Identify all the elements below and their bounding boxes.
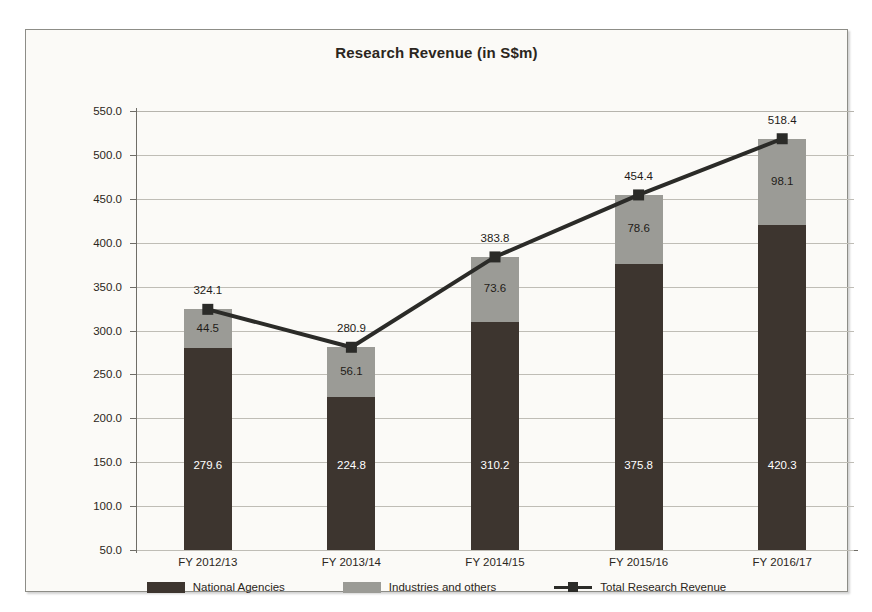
legend-label: Industries and others <box>389 581 496 593</box>
y-axis-tick-label: 350.0 <box>66 281 122 293</box>
y-axis-tick-label: 50.0 <box>66 544 122 556</box>
y-axis-tick-label: 100.0 <box>66 500 122 512</box>
total-revenue-marker[interactable] <box>633 189 644 200</box>
total-value-label: 280.9 <box>316 322 386 334</box>
total-revenue-marker[interactable] <box>777 133 788 144</box>
plot-area: 44.5279.656.1224.873.6310.278.6375.898.1… <box>136 111 854 550</box>
legend-item[interactable]: Total Research Revenue <box>554 581 726 593</box>
legend-line-marker-icon <box>554 582 592 593</box>
legend-item[interactable]: Industries and others <box>343 581 496 593</box>
total-revenue-marker[interactable] <box>202 304 213 315</box>
total-value-label: 383.8 <box>460 232 530 244</box>
y-axis-tick-label: 500.0 <box>66 149 122 161</box>
x-axis-tick-label: FY 2012/13 <box>148 556 268 568</box>
y-axis-tick-label: 250.0 <box>66 368 122 380</box>
legend-swatch-icon <box>343 582 381 593</box>
chart-frame: Research Revenue (in S$m) 550.0500.0450.… <box>25 29 848 592</box>
legend-label: National Agencies <box>193 581 285 593</box>
chart-title: Research Revenue (in S$m) <box>26 44 847 61</box>
y-axis-tick-mark <box>130 550 137 551</box>
x-axis-tick-label: FY 2015/16 <box>579 556 699 568</box>
total-value-label: 324.1 <box>173 284 243 296</box>
y-axis-tick-label: 150.0 <box>66 456 122 468</box>
legend-item[interactable]: National Agencies <box>147 581 285 593</box>
x-axis-tick-label: FY 2016/17 <box>722 556 842 568</box>
y-axis-tick-label: 300.0 <box>66 325 122 337</box>
total-revenue-line <box>136 111 854 550</box>
total-value-label: 454.4 <box>604 170 674 182</box>
total-revenue-marker[interactable] <box>346 342 357 353</box>
chart-legend: National AgenciesIndustries and othersTo… <box>26 581 847 593</box>
gridline <box>136 550 854 551</box>
y-axis-tick-label: 550.0 <box>66 105 122 117</box>
y-axis-tick-label: 400.0 <box>66 237 122 249</box>
legend-swatch-icon <box>147 582 185 593</box>
y-axis-tick-label: 200.0 <box>66 412 122 424</box>
x-axis-tick-label: FY 2013/14 <box>291 556 411 568</box>
total-revenue-marker[interactable] <box>490 251 501 262</box>
total-value-label: 518.4 <box>747 114 817 126</box>
x-axis-tick-label: FY 2014/15 <box>435 556 555 568</box>
y-axis-tick-label: 450.0 <box>66 193 122 205</box>
legend-label: Total Research Revenue <box>600 581 726 593</box>
